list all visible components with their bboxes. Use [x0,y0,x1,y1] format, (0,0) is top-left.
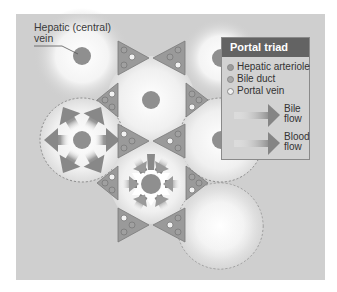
legend-item-label: Bile duct [237,73,275,84]
legend-item-portal-vein: Portal vein [227,85,284,97]
portal-vein-icon [227,88,234,95]
flow-arrows [232,102,282,158]
legend-item-label: Portal vein [237,85,284,96]
legend-item-label: Hepatic arteriole [237,61,310,72]
callout-central-vein-label: Hepatic (central) vein [34,22,111,44]
legend-portal-triad: Portal triad Hepatic arteriole Bile duct… [221,37,310,160]
callout-line-2: vein [34,33,111,44]
blood-flow-arrow-icon [234,132,280,155]
bile-flow-label: Bile flow [284,104,302,124]
blood-flow-line2: flow [284,142,310,152]
blood-flow-label: Blood flow [284,132,310,152]
central-vein [142,91,160,109]
central-vein [141,174,161,194]
bile-flow-line2: flow [284,114,302,124]
central-vein [73,131,91,149]
legend-item-bile-duct: Bile duct [227,73,275,85]
central-vein [73,47,91,65]
bile-duct-icon [227,76,234,83]
legend-item-hepatic-arteriole: Hepatic arteriole [227,61,310,73]
legend-title: Portal triad [222,38,309,57]
hepatic-arteriole-icon [227,64,234,71]
liver-lobule-diagram: Hepatic (central) vein Portal triad Hepa… [0,0,337,292]
bile-flow-arrow-icon [234,104,280,127]
